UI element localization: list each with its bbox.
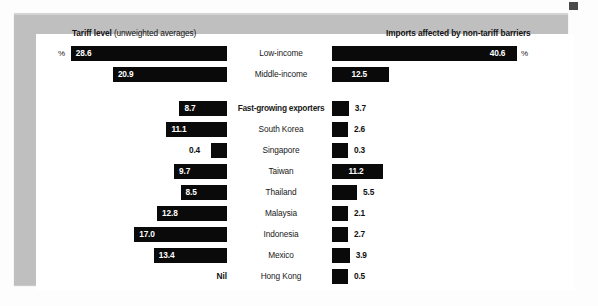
bar-right-mexico xyxy=(332,248,350,263)
bar-right-value: 3.7 xyxy=(355,101,366,116)
bar-right-value: 0.3 xyxy=(354,143,365,158)
bar-right-indonesia xyxy=(332,227,348,242)
category-label-malaysia: Malaysia xyxy=(230,204,332,223)
bar-right-value: 3.9 xyxy=(356,248,367,263)
bar-right-value: 2.7 xyxy=(354,227,365,242)
category-label-hong-kong: Hong Kong xyxy=(230,267,332,286)
bar-right-value: 12.5 xyxy=(351,67,367,82)
category-label-south-korea: South Korea xyxy=(230,120,332,139)
bar-row: 9.7Taiwan11.2 xyxy=(0,162,598,181)
bar-row: 17.0Indonesia2.7 xyxy=(0,225,598,244)
percent-symbol-left: % xyxy=(58,46,65,61)
bar-row: 20.9Middle-income12.5 xyxy=(0,65,598,84)
bar-row: 0.4Singapore0.3 xyxy=(0,141,598,160)
bar-right-value: 5.5 xyxy=(363,185,374,200)
bar-left-value: 9.7 xyxy=(179,164,190,179)
category-label-mexico: Mexico xyxy=(230,246,332,265)
figure-canvas: Tariff level (unweighted averages) Impor… xyxy=(0,0,598,306)
bar-left-value: 11.1 xyxy=(171,122,186,137)
category-label-indonesia: Indonesia xyxy=(230,225,332,244)
category-label-middle-income: Middle-income xyxy=(230,65,332,84)
bar-row: 8.5Thailand5.5 xyxy=(0,183,598,202)
bar-row: 13.4Mexico3.9 xyxy=(0,246,598,265)
bar-left-singapore xyxy=(211,143,227,158)
bar-chart-plot: Tariff level (unweighted averages) Impor… xyxy=(0,0,598,306)
bar-left-value: 17.0 xyxy=(139,227,155,242)
header-tariff-level-light: (unweighted averages) xyxy=(112,28,197,38)
header-nontariff-barriers: Imports affected by non-tariff barriers xyxy=(386,28,531,38)
bar-right-value: 11.2 xyxy=(348,164,363,179)
bar-right-value: 0.5 xyxy=(354,269,365,284)
bar-left-value: 20.9 xyxy=(118,67,134,82)
bar-row: 28.6Low-income40.6%% xyxy=(0,44,598,63)
bar-left-value: 13.4 xyxy=(159,248,175,263)
category-label-taiwan: Taiwan xyxy=(230,162,332,181)
bar-left-value: 0.4 xyxy=(189,143,200,158)
category-label-fast-growing-exporters: Fast-growing exporters xyxy=(230,99,332,118)
percent-symbol-right: % xyxy=(521,46,528,61)
bar-row: 8.7Fast-growing exporters3.7 xyxy=(0,99,598,118)
bar-right-fast-growing-exporters xyxy=(332,101,349,116)
bar-right-south-korea xyxy=(332,122,348,137)
bar-left-value: 8.5 xyxy=(186,185,197,200)
bar-row: NilHong Kong0.5 xyxy=(0,267,598,286)
category-label-singapore: Singapore xyxy=(230,141,332,160)
bar-right-thailand xyxy=(332,185,357,200)
bar-right-value: 2.6 xyxy=(354,122,365,137)
bar-right-value: 40.6 xyxy=(490,46,506,61)
bar-right-value: 2.1 xyxy=(354,206,365,221)
bar-right-hong-kong xyxy=(332,269,348,284)
bar-left-low-income xyxy=(71,46,227,61)
bar-right-malaysia xyxy=(332,206,348,221)
header-tariff-level: Tariff level (unweighted averages) xyxy=(72,28,196,38)
bar-left-value: 12.8 xyxy=(162,206,178,221)
bar-row: 12.8Malaysia2.1 xyxy=(0,204,598,223)
bar-row: 11.1South Korea2.6 xyxy=(0,120,598,139)
bar-left-value: 8.7 xyxy=(184,101,195,116)
bar-left-nil-label: Nil xyxy=(216,269,227,284)
category-label-low-income: Low-income xyxy=(230,44,332,63)
bar-left-value: 28.6 xyxy=(76,46,92,61)
bar-right-singapore xyxy=(332,143,348,158)
header-tariff-level-bold: Tariff level xyxy=(72,28,112,38)
category-label-thailand: Thailand xyxy=(230,183,332,202)
